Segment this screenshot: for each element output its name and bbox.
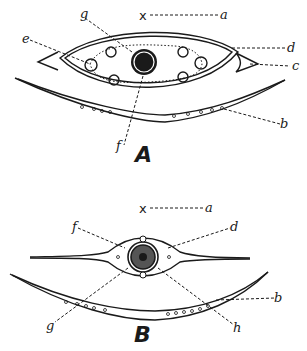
- panel-b: x a f d b g h B: [10, 200, 282, 347]
- panel-b-leader-d: [168, 228, 230, 248]
- panel-a-label-d: d: [287, 40, 295, 55]
- panel-a-axis-x: x: [139, 8, 147, 23]
- panel-b-label-g: g: [46, 318, 54, 333]
- panel-a: x a g e d: [15, 6, 300, 167]
- panel-a-leader-b: [224, 109, 280, 124]
- panel-b-title: B: [134, 322, 151, 347]
- panel-a-title: A: [133, 142, 152, 167]
- panel-b-label-h: h: [233, 320, 241, 335]
- panel-a-lower-sheath: [15, 78, 285, 122]
- panel-a-label-g: g: [80, 6, 88, 21]
- panel-b-label-f: f: [71, 219, 79, 234]
- panel-b-leader-g: [55, 268, 128, 322]
- panel-b-label-a: a: [205, 200, 213, 215]
- panel-a-label-c: c: [292, 58, 300, 73]
- panel-a-label-a: a: [220, 7, 228, 22]
- panel-a-right-wing: [236, 53, 258, 72]
- panel-a-label-e: e: [22, 31, 30, 46]
- panel-b-leader-h: [158, 268, 234, 325]
- panel-a-label-f: f: [115, 138, 123, 153]
- panel-a-leader-e: [30, 40, 90, 64]
- panel-b-label-d: d: [230, 219, 238, 234]
- panel-b-label-b: b: [274, 290, 282, 305]
- diagram-canvas: x a g e d: [0, 0, 307, 351]
- panel-a-left-wing: [38, 52, 58, 70]
- panel-b-axis-x: x: [139, 201, 147, 216]
- panel-a-label-b: b: [280, 116, 288, 131]
